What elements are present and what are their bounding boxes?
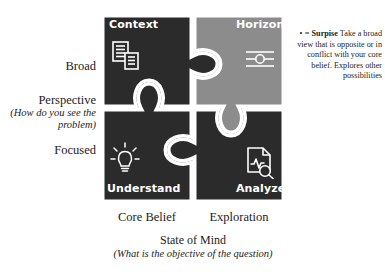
quadrant-label-horizon: Horizon <box>236 18 284 31</box>
lightbulb-icon <box>110 142 140 178</box>
documents-icon <box>112 41 144 75</box>
axis-label-focused: Focused <box>4 143 96 157</box>
quadrant-label-context: Context <box>109 18 158 31</box>
diagram-caption-title: State of Mind <box>160 233 226 247</box>
axis-label-exploration-text: Exploration <box>209 210 268 224</box>
axis-title-perspective-subtext: (How do you see the problem) <box>0 107 96 131</box>
axis-label-core-belief-text: Core Belief <box>118 210 176 224</box>
legend-description: Take a broad view that is opposite or in… <box>297 29 382 80</box>
diagram-caption-subtitle: (What is the objective of the question) <box>95 248 291 260</box>
axis-label-focused-text: Focused <box>54 143 96 157</box>
axis-label-exploration: Exploration <box>193 210 285 225</box>
quadrant-label-understand: Understand <box>107 182 180 195</box>
puzzle-quadrant-diagram: Broad Perspective (How do you see the pr… <box>0 0 385 274</box>
axis-label-broad-text: Broad <box>65 59 96 73</box>
legend-equals-symbol: = <box>305 29 310 38</box>
axis-title-perspective-text: Perspective <box>38 93 96 107</box>
axis-title-perspective: Perspective (How do you see the problem) <box>0 93 96 131</box>
axis-label-core-belief: Core Belief <box>101 210 193 225</box>
document-magnifier-icon <box>246 147 276 183</box>
axis-label-broad: Broad <box>4 59 96 73</box>
legend-term: Surpise <box>312 29 338 38</box>
legend-note: • = Surpise Take a broad view that is op… <box>294 29 382 82</box>
legend-bullet-symbol: • <box>299 29 302 38</box>
diagram-caption: State of Mind (What is the objective of … <box>95 234 291 260</box>
quadrant-label-analyze: Analyze <box>236 182 285 195</box>
slider-icon <box>245 48 275 74</box>
